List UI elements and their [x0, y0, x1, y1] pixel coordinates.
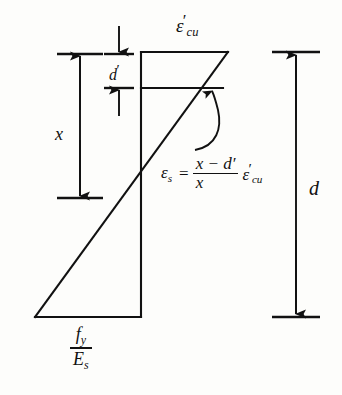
equation-fraction: x − d′ x: [193, 155, 239, 192]
subscript-s: s: [84, 357, 89, 371]
equation-lhs: εs: [161, 164, 172, 184]
fraction-numerator: x − d′: [193, 154, 239, 174]
equation-rhs: ε′cu: [242, 161, 262, 186]
label-yield-strain: fy Es: [70, 325, 92, 371]
strain-diagram-figure: ε′cu d′ x d εs = x − d′ x ε′cu fy Es: [0, 0, 342, 395]
label-steel-strain-equation: εs = x − d′ x ε′cu: [161, 155, 262, 192]
label-d-prime: d′: [109, 63, 120, 83]
subscript-cu: cu: [187, 25, 199, 39]
subscript-cu: cu: [252, 174, 263, 186]
diagram-vector-graphics: [0, 0, 342, 395]
E-glyph: E: [73, 349, 84, 369]
fraction-denominator: x: [193, 172, 207, 192]
equals-sign: =: [179, 165, 189, 182]
subscript-y: y: [81, 333, 86, 347]
epsilon-glyph: ε: [161, 163, 168, 182]
yield-strain-fraction: fy Es: [70, 325, 92, 371]
fraction-denominator: Es: [70, 349, 92, 371]
prime-glyph: ′: [116, 62, 119, 78]
equation-leader-arrow: [195, 91, 219, 150]
label-epsilon-cu-top: ε′cu: [176, 12, 198, 39]
fraction-numerator: fy: [73, 325, 89, 347]
x-dimension-group: [57, 54, 103, 198]
label-x-depth: x: [55, 125, 63, 143]
label-d-depth: d: [309, 178, 319, 198]
subscript-s: s: [168, 171, 172, 183]
